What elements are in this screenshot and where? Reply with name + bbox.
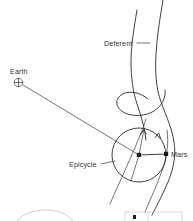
label-deferent: Deferent <box>104 39 132 48</box>
mars-point <box>164 152 168 156</box>
footer-artifacts <box>17 210 182 221</box>
label-epicycle: Epicycle <box>69 160 97 169</box>
radius-to-mars <box>139 154 166 155</box>
scale-box-marker <box>133 215 136 219</box>
epicycle-diagram: Deferent Earth Epicycle Mars <box>0 0 193 221</box>
deferent-outer-curve <box>152 0 175 215</box>
deferent-curves <box>131 0 175 215</box>
retrograde-loop <box>117 90 165 115</box>
retrograde-loop-path <box>117 90 165 115</box>
label-mars: Mars <box>171 150 188 159</box>
radius-lower <box>131 155 139 181</box>
trajectory-lower-left <box>110 119 146 204</box>
sight-line-earth-to-epicycle <box>23 85 139 155</box>
epicycle-trajectory <box>110 119 168 212</box>
label-earth: Earth <box>10 67 28 76</box>
earth-symbol-icon <box>14 78 22 86</box>
deferent-inner-curve <box>131 10 146 140</box>
trajectory-lower-right <box>145 130 168 212</box>
partial-arc-bottom-left <box>17 210 73 221</box>
